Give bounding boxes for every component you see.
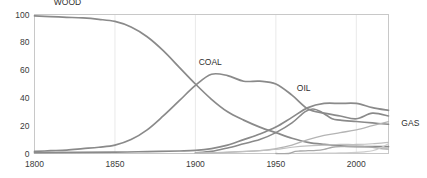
- series-label-oil: OIL: [297, 83, 311, 93]
- series-line-wood: [35, 16, 389, 147]
- energy-transition-chart: 020406080100 18001850190019502000 WOODCO…: [0, 0, 427, 178]
- series-line-coal: [35, 74, 389, 152]
- y-axis-tick-label: 40: [20, 93, 30, 103]
- x-axis-tick-label: 1850: [105, 159, 124, 169]
- chart-canvas: 020406080100 18001850190019502000 WOODCO…: [0, 0, 427, 178]
- plot-area-frame: [35, 15, 389, 154]
- x-axis-tick-label: 1900: [186, 159, 205, 169]
- series-label-gas: GAS: [401, 118, 419, 128]
- y-axis-tick-label: 80: [20, 37, 30, 47]
- y-axis-tick-label: 100: [15, 10, 29, 20]
- y-axis-tick-label: 60: [20, 65, 30, 75]
- series-labels-group: WOODCOALOILGAS: [54, 0, 420, 128]
- x-axis-group: 18001850190019502000: [25, 159, 366, 169]
- y-axis-tick-label: 0: [25, 149, 30, 159]
- y-axis-tick-label: 20: [20, 121, 30, 131]
- series-group: [35, 16, 389, 154]
- series-label-wood: WOOD: [54, 0, 81, 7]
- x-axis-tick-label: 1950: [266, 159, 285, 169]
- x-axis-tick-label: 2000: [347, 159, 366, 169]
- gridlines-group: [115, 15, 356, 154]
- series-line-hydro: [195, 142, 388, 153]
- x-axis-tick-label: 1800: [25, 159, 44, 169]
- series-label-coal: COAL: [199, 57, 222, 67]
- y-axis-group: 020406080100: [15, 10, 29, 159]
